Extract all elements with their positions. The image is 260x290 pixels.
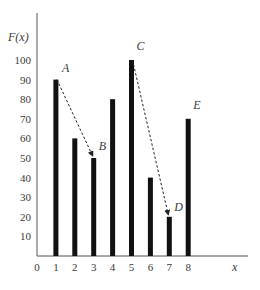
bar-3 [91, 158, 96, 256]
y-tick-label: 60 [20, 132, 32, 144]
x-tick-label: 1 [53, 261, 59, 273]
y-tick-label: 80 [20, 93, 32, 105]
x-axis-label: x [231, 260, 238, 274]
x-tick-label: 5 [129, 261, 135, 273]
bars [53, 60, 190, 256]
point-label-a: A [61, 61, 70, 75]
point-label-d: D [173, 200, 183, 214]
point-label-b: B [99, 139, 107, 153]
y-tick-label: 30 [20, 191, 32, 203]
chart-canvas: 102030405060708090100012345678F(x)x ABCD… [0, 0, 260, 290]
y-tick-label: 100 [15, 54, 32, 66]
x-tick-label: 8 [185, 261, 191, 273]
y-tick-label: 10 [20, 230, 32, 242]
x-tick-label: 6 [148, 261, 154, 273]
axes: 102030405060708090100012345678F(x)x [7, 13, 248, 274]
bar-8 [186, 119, 191, 256]
y-tick-label: 40 [20, 172, 32, 184]
bar-2 [72, 138, 77, 256]
x-tick-label: 0 [34, 261, 40, 273]
bar-1 [53, 80, 58, 256]
y-axis-label: F(x) [7, 30, 29, 44]
bar-4 [110, 99, 115, 256]
x-tick-label: 4 [110, 261, 116, 273]
bar-6 [148, 178, 153, 256]
y-tick-label: 50 [20, 152, 32, 164]
y-tick-label: 70 [20, 113, 32, 125]
x-tick-label: 3 [91, 261, 97, 273]
y-tick-label: 20 [20, 211, 32, 223]
point-label-e: E [192, 98, 201, 112]
point-label-c: C [137, 39, 146, 53]
bar-7 [167, 217, 172, 256]
x-tick-label: 2 [72, 261, 78, 273]
bar-5 [129, 60, 134, 256]
bar-chart: 102030405060708090100012345678F(x)x ABCD… [0, 0, 260, 290]
y-tick-label: 90 [20, 74, 32, 86]
x-tick-label: 7 [167, 261, 173, 273]
